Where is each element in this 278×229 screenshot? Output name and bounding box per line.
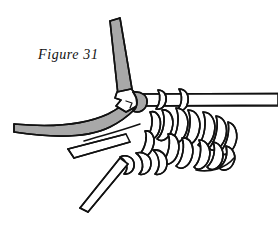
figure-caption: Figure 31: [38, 47, 98, 63]
figure-background: [0, 0, 278, 229]
figure-illustration: Figure 31: [0, 0, 278, 229]
foundation-bar: [130, 94, 278, 107]
crochet-diagram-svg: [0, 0, 278, 229]
